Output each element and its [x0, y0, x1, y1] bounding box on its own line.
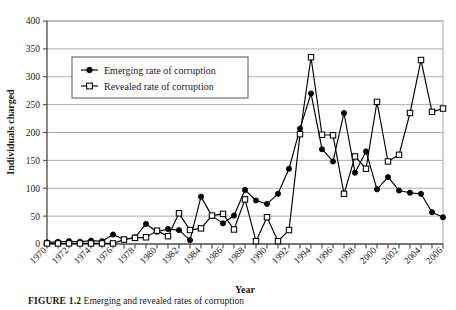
legend-label: Revealed rate of corruption — [104, 81, 214, 92]
y-tick-label: 250 — [26, 100, 41, 110]
data-point-open-square — [132, 235, 137, 240]
data-point-open-square — [275, 239, 280, 244]
figure-container: 050100150200250300350400 197019721974197… — [0, 0, 456, 310]
data-point-filled-circle — [440, 215, 445, 220]
data-point-open-square — [66, 241, 71, 246]
data-point-open-square — [220, 211, 225, 216]
data-point-open-square — [176, 211, 181, 216]
figure-caption-label: FIGURE 1.2 — [28, 296, 81, 306]
data-point-filled-circle — [143, 221, 148, 226]
data-point-open-square — [319, 132, 324, 137]
legend-box — [72, 57, 248, 98]
data-point-filled-circle — [264, 201, 269, 206]
data-point-open-square — [77, 241, 82, 246]
line-chart: 050100150200250300350400 197019721974197… — [0, 0, 456, 310]
figure-caption: FIGURE 1.2 Emerging and revealed rates o… — [28, 296, 448, 306]
data-point-open-square — [99, 241, 104, 246]
y-axis-title: Individuals charged — [5, 89, 16, 175]
data-point-filled-circle — [275, 191, 280, 196]
data-point-filled-circle — [418, 191, 423, 196]
y-tick-label: 400 — [26, 16, 41, 26]
data-point-filled-circle — [396, 188, 401, 193]
data-point-filled-circle — [253, 198, 258, 203]
data-point-filled-circle — [187, 237, 192, 242]
data-point-filled-circle — [176, 227, 181, 232]
data-point-open-square — [187, 227, 192, 232]
data-point-open-square — [297, 131, 302, 136]
legend-label: Emerging rate of corruption — [104, 65, 216, 76]
data-point-open-square — [253, 239, 258, 244]
data-point-open-square — [385, 159, 390, 164]
data-point-filled-circle — [374, 187, 379, 192]
data-point-open-square — [330, 133, 335, 138]
data-point-open-square — [110, 241, 115, 246]
data-point-open-square — [341, 191, 346, 196]
data-point-open-square — [88, 241, 93, 246]
data-point-filled-circle — [110, 232, 115, 237]
data-point-open-square — [44, 241, 49, 246]
data-point-filled-circle — [385, 175, 390, 180]
y-tick-label: 300 — [26, 72, 41, 82]
data-point-open-square — [352, 154, 357, 159]
data-point-open-square — [121, 237, 126, 242]
data-point-open-square — [308, 55, 313, 60]
figure-caption-text: Emerging and revealed rates of corruptio… — [84, 296, 244, 306]
data-point-filled-circle — [242, 187, 247, 192]
data-point-filled-circle — [231, 213, 236, 218]
data-point-open-square — [165, 233, 170, 238]
data-point-filled-circle — [319, 147, 324, 152]
data-point-filled-circle — [286, 166, 291, 171]
data-point-filled-circle — [198, 194, 203, 199]
data-point-open-square — [231, 227, 236, 232]
data-point-open-square — [429, 109, 434, 114]
data-point-open-square — [407, 110, 412, 115]
data-point-filled-circle — [407, 190, 412, 195]
legend-marker-open-square — [87, 83, 93, 89]
data-point-open-square — [209, 213, 214, 218]
x-axis-title: Year — [235, 284, 256, 295]
data-point-open-square — [418, 57, 423, 62]
y-tick-label: 150 — [26, 156, 41, 166]
y-tick-label: 200 — [26, 128, 41, 138]
data-point-filled-circle — [429, 210, 434, 215]
legend-marker-filled-circle — [87, 67, 93, 73]
data-point-filled-circle — [330, 159, 335, 164]
data-point-open-square — [242, 197, 247, 202]
data-point-filled-circle — [220, 221, 225, 226]
data-point-open-square — [55, 241, 60, 246]
y-tick-label: 100 — [26, 184, 41, 194]
data-point-open-square — [374, 99, 379, 104]
chart-legend[interactable]: Emerging rate of corruptionRevealed rate… — [72, 57, 248, 98]
data-point-filled-circle — [308, 91, 313, 96]
data-point-open-square — [198, 226, 203, 231]
data-point-open-square — [264, 215, 269, 220]
data-point-open-square — [154, 228, 159, 233]
data-point-filled-circle — [165, 226, 170, 231]
y-tick-label: 50 — [31, 212, 41, 222]
data-point-filled-circle — [363, 149, 368, 154]
data-point-open-square — [363, 166, 368, 171]
data-point-open-square — [396, 152, 401, 157]
data-point-open-square — [440, 106, 445, 111]
data-point-open-square — [286, 227, 291, 232]
y-tick-label: 350 — [26, 44, 41, 54]
data-point-filled-circle — [341, 110, 346, 115]
data-point-open-square — [143, 235, 148, 240]
data-point-filled-circle — [352, 170, 357, 175]
